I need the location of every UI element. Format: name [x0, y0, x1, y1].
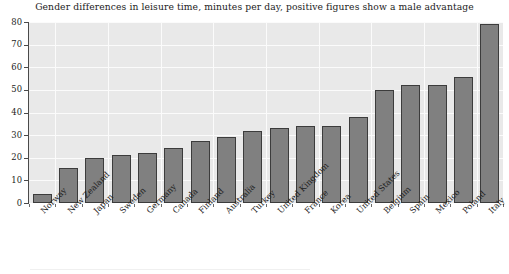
gridline-vertical: [161, 22, 162, 203]
bar: [454, 77, 473, 203]
gridline-vertical: [424, 22, 425, 203]
bar-chart-figure: Gender differences in leisure time, minu…: [0, 0, 509, 274]
bottom-rule: [30, 269, 310, 270]
y-tick-label: 60: [0, 63, 22, 71]
y-tick-label: 70: [0, 40, 22, 48]
gridline-vertical: [213, 22, 214, 203]
x-tick-mark: [29, 204, 30, 207]
gridline-vertical: [55, 22, 56, 203]
gridline-vertical: [266, 22, 267, 203]
y-tick-mark: [24, 135, 29, 136]
y-tick-label: 20: [0, 153, 22, 161]
y-tick-label: 30: [0, 131, 22, 139]
y-tick-mark: [24, 45, 29, 46]
y-tick-label: 80: [0, 18, 22, 26]
y-tick-mark: [24, 158, 29, 159]
y-tick-label: 50: [0, 85, 22, 93]
y-tick-label: 10: [0, 176, 22, 184]
y-tick-label: 40: [0, 108, 22, 116]
y-tick-mark: [24, 22, 29, 23]
gridline-vertical: [371, 22, 372, 203]
bar: [480, 24, 499, 203]
y-tick-label: 0: [0, 199, 22, 207]
bar: [349, 117, 368, 203]
y-tick-mark: [24, 90, 29, 91]
y-tick-mark: [24, 113, 29, 114]
y-tick-mark: [24, 180, 29, 181]
chart-title: Gender differences in leisure time, minu…: [0, 1, 509, 12]
y-tick-mark: [24, 67, 29, 68]
bar: [428, 85, 447, 203]
gridline-vertical: [477, 22, 478, 203]
